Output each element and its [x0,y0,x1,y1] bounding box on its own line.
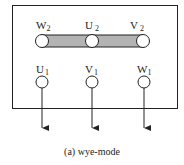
terminal-w1-circle [138,76,150,88]
terminal-w1: W1 [137,63,151,88]
svg-text:V2: V2 [130,19,144,33]
terminal-w2-sub: 2 [46,24,50,33]
terminal-u2: U2 [85,19,99,48]
terminal-u1-letter: U [36,63,44,75]
terminal-v2-letter: V [130,19,138,31]
terminal-u2-letter: U [85,19,93,31]
svg-text:W1: W1 [137,63,151,77]
terminal-w2: W2 [36,19,51,48]
svg-text:V1: V1 [85,63,98,77]
terminal-u1-circle [36,76,48,88]
terminal-w1-letter: W [137,63,148,75]
svg-text:U1: U1 [36,63,49,77]
terminal-u1-sub: 1 [45,68,49,77]
terminal-v1-sub: 1 [94,68,98,77]
terminal-v2-circle [137,35,150,48]
terminal-v2-sub: 2 [140,24,144,33]
terminal-w2-circle [36,35,49,48]
terminal-u2-sub: 2 [95,24,99,33]
diagram-caption: (a) wye-mode [64,146,120,158]
svg-text:U2: U2 [85,19,99,33]
wye-mode-diagram: W2 U2 V2 U1 V1 W1 (a) wye-mode [0,0,184,165]
terminal-v1: V1 [85,63,98,88]
terminal-v1-circle [86,76,98,88]
terminal-w1-sub: 1 [147,68,151,77]
terminal-v1-letter: V [85,63,93,75]
terminal-w2-letter: W [36,19,47,31]
svg-text:W2: W2 [36,19,50,33]
terminal-u2-circle [86,35,99,48]
terminal-u1: U1 [36,63,49,88]
